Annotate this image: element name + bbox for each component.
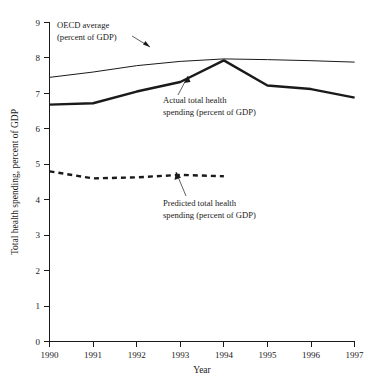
chart-container: 0 1 2 3 4 5 6 7 8 9 1990 1991 1992 1993 …: [0, 0, 368, 381]
annotation-predicted-total-health-spending: Predicted total health spending (percent…: [163, 172, 256, 220]
annotation-oecd-average-line1: OECD average: [57, 20, 109, 30]
y-tick-label-7: 7: [36, 89, 41, 99]
y-tick-label-5: 5: [36, 159, 41, 169]
annotation-oecd-average-line2: (percent of GDP): [57, 32, 117, 42]
y-tick-label-8: 8: [36, 53, 41, 63]
y-tick-label-0: 0: [36, 337, 41, 347]
y-tick-label-1: 1: [36, 301, 41, 311]
x-tick-label-1996: 1996: [302, 350, 321, 360]
annotation-predicted-arrow-icon: [175, 172, 182, 180]
y-axis-ticks: [44, 22, 50, 341]
annotation-actual-line1: Actual total health: [163, 95, 227, 105]
series-line-predicted-total-health-spending: [50, 171, 224, 178]
x-tick-label-1997: 1997: [346, 350, 365, 360]
x-tick-label-1995: 1995: [258, 350, 277, 360]
line-chart: 0 1 2 3 4 5 6 7 8 9 1990 1991 1992 1993 …: [0, 0, 368, 381]
y-tick-label-9: 9: [36, 18, 41, 28]
annotation-oecd-average-arrow-icon: [143, 41, 150, 47]
x-tick-label-1990: 1990: [41, 350, 60, 360]
x-tick-label-1994: 1994: [215, 350, 234, 360]
series-line-oecd-average: [50, 59, 355, 77]
y-tick-label-6: 6: [36, 124, 41, 134]
y-tick-label-4: 4: [36, 195, 41, 205]
annotation-oecd-average: OECD average (percent of GDP): [57, 20, 150, 47]
x-tick-label-1991: 1991: [84, 350, 102, 360]
x-tick-label-1993: 1993: [171, 350, 190, 360]
y-axis-title: Total health spending, percent of GDP: [10, 109, 20, 255]
annotation-actual-line2: spending (percent of GDP): [163, 107, 256, 117]
y-tick-label-3: 3: [36, 230, 41, 240]
x-axis-ticks: [50, 342, 355, 348]
x-axis-title: Year: [193, 365, 211, 375]
y-tick-label-2: 2: [36, 266, 41, 276]
x-tick-label-1992: 1992: [128, 350, 146, 360]
annotation-predicted-line1: Predicted total health: [163, 198, 237, 208]
annotation-predicted-line2: spending (percent of GDP): [163, 210, 256, 220]
